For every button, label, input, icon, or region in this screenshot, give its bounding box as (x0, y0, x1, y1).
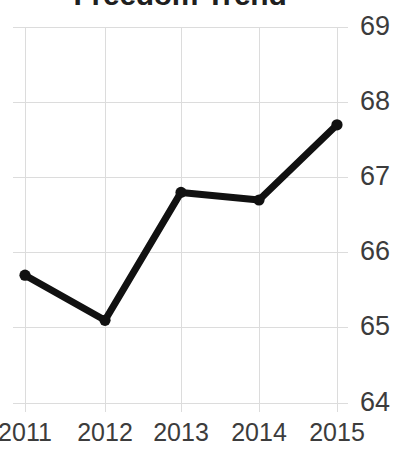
data-point-2013 (175, 187, 186, 198)
y-axis-label-69: 69 (360, 13, 408, 40)
plot-area: 69 68 67 66 65 64 2011 2012 2013 2014 20… (0, 0, 413, 461)
y-axis-label-65: 65 (360, 313, 408, 340)
data-point-2015 (331, 119, 342, 130)
y-axis-label-66: 66 (360, 238, 408, 265)
data-series (0, 0, 413, 461)
series-markers (19, 119, 342, 326)
x-axis-label-2014: 2014 (214, 420, 304, 445)
y-axis-label-68: 68 (360, 88, 408, 115)
series-line (25, 125, 337, 320)
data-point-2012 (99, 315, 110, 326)
data-point-2011 (19, 270, 30, 281)
data-point-2014 (253, 194, 264, 205)
x-axis-label-2015: 2015 (292, 420, 382, 445)
x-axis-label-2013: 2013 (136, 420, 226, 445)
y-axis-label-64: 64 (360, 389, 408, 416)
y-axis-label-67: 67 (360, 163, 408, 190)
chart-container: Freedom Trend (0, 0, 413, 461)
